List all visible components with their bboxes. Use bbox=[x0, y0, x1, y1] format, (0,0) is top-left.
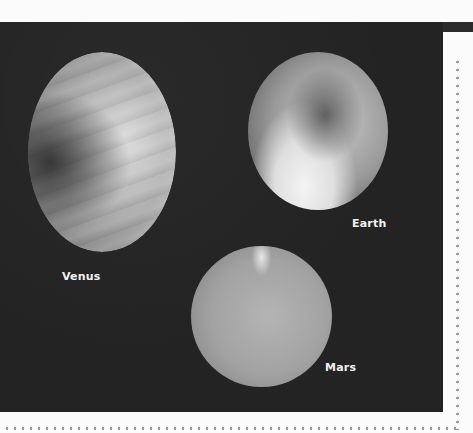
earth-image bbox=[248, 52, 388, 210]
mars-image bbox=[191, 246, 332, 387]
dotted-border-bottom bbox=[3, 427, 459, 430]
earth-label: Earth bbox=[352, 217, 386, 230]
dotted-border-right bbox=[456, 58, 459, 430]
venus-label: Venus bbox=[62, 270, 101, 283]
planets-photo: Venus Earth Mars bbox=[0, 22, 443, 412]
venus-image bbox=[28, 52, 176, 252]
mars-label: Mars bbox=[325, 361, 356, 374]
